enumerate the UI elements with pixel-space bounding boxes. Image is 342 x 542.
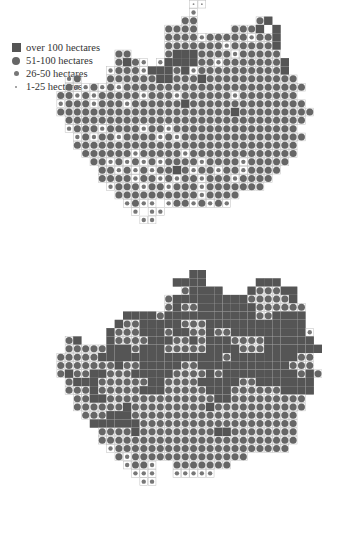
large-circle-icon <box>124 67 131 74</box>
large-circle-icon <box>173 42 180 49</box>
large-circle-icon <box>265 133 272 140</box>
over-100-square-icon <box>123 419 131 427</box>
large-circle-icon <box>124 329 131 336</box>
top-distribution-map <box>40 0 322 224</box>
large-circle-icon <box>182 125 189 132</box>
large-circle-icon <box>248 420 255 427</box>
over-100-square-icon <box>65 370 73 378</box>
large-circle-icon <box>248 296 255 303</box>
large-circle-icon <box>165 420 172 427</box>
medium-circle-icon <box>183 471 187 475</box>
large-circle-icon <box>82 125 89 132</box>
over-100-square-icon <box>272 328 280 336</box>
large-circle-icon <box>215 183 222 190</box>
large-circle-icon <box>273 296 280 303</box>
over-100-square-icon <box>156 328 164 336</box>
large-circle-icon <box>215 329 222 336</box>
large-circle-icon <box>281 158 288 165</box>
large-circle-icon <box>273 412 280 419</box>
over-100-square-icon <box>198 75 206 83</box>
over-100-square-icon <box>156 378 164 386</box>
large-circle-icon <box>82 412 89 419</box>
medium-circle-icon <box>216 168 220 172</box>
medium-circle-icon <box>158 176 162 180</box>
large-circle-icon <box>265 304 272 311</box>
large-circle-icon <box>240 142 247 149</box>
large-circle-icon <box>74 370 81 377</box>
large-circle-icon <box>132 320 139 327</box>
large-circle-icon <box>256 50 263 57</box>
large-circle-icon <box>223 125 230 132</box>
large-circle-icon <box>99 412 106 419</box>
large-circle-icon <box>190 395 197 402</box>
over-100-square-icon <box>206 328 214 336</box>
large-circle-icon <box>165 42 172 49</box>
small-dot-icon <box>201 3 203 5</box>
large-circle-icon <box>273 117 280 124</box>
large-circle-icon <box>107 403 114 410</box>
over-100-square-icon <box>173 58 181 66</box>
large-circle-icon <box>290 428 297 435</box>
large-circle-icon <box>248 125 255 132</box>
over-100-square-icon <box>214 312 222 320</box>
over-100-square-icon <box>165 75 173 83</box>
large-circle-icon <box>140 403 147 410</box>
medium-circle-icon <box>108 446 112 450</box>
large-circle-icon <box>198 50 205 57</box>
over-100-square-icon <box>181 353 189 361</box>
over-100-square-icon <box>297 386 305 394</box>
large-circle-icon <box>99 387 106 394</box>
large-circle-icon <box>215 437 222 444</box>
large-circle-icon <box>140 428 147 435</box>
large-circle-icon <box>298 403 305 410</box>
large-circle-icon <box>207 59 214 66</box>
large-circle-icon <box>124 75 131 82</box>
large-circle-icon <box>207 34 214 41</box>
large-circle-icon <box>290 92 297 99</box>
large-circle-icon <box>232 337 239 344</box>
large-circle-icon <box>248 337 255 344</box>
over-100-square-icon <box>223 370 231 378</box>
large-circle-icon <box>190 437 197 444</box>
large-circle-icon <box>240 445 247 452</box>
over-100-square-icon <box>90 386 98 394</box>
large-circle-icon <box>290 109 297 116</box>
large-circle-icon <box>173 142 180 149</box>
large-circle-icon <box>74 362 81 369</box>
large-circle-icon <box>281 428 288 435</box>
large-circle-icon <box>273 304 280 311</box>
large-circle-icon <box>273 133 280 140</box>
large-circle-icon <box>165 117 172 124</box>
large-circle-icon <box>240 92 247 99</box>
large-circle-icon <box>66 387 73 394</box>
over-100-square-icon <box>239 320 247 328</box>
over-100-square-icon <box>206 312 214 320</box>
over-100-square-icon <box>256 278 264 286</box>
large-circle-icon <box>290 362 297 369</box>
medium-circle-icon <box>158 60 162 64</box>
large-circle-icon <box>82 354 89 361</box>
large-circle-icon <box>99 100 106 107</box>
large-circle-icon <box>190 445 197 452</box>
large-circle-icon <box>198 387 205 394</box>
large-circle-icon <box>165 379 172 386</box>
large-circle-icon <box>173 67 180 74</box>
over-100-square-icon <box>156 386 164 394</box>
large-circle-icon <box>232 133 239 140</box>
over-100-square-icon <box>281 328 289 336</box>
large-circle-icon <box>232 59 239 66</box>
large-circle-icon <box>107 379 114 386</box>
large-circle-icon <box>124 370 131 377</box>
large-circle-icon <box>198 395 205 402</box>
large-circle-icon <box>265 142 272 149</box>
large-circle-icon <box>182 337 189 344</box>
over-100-square-icon <box>131 370 139 378</box>
large-circle-icon <box>90 354 97 361</box>
medium-circle-icon <box>208 471 212 475</box>
medium-circle-icon <box>200 176 204 180</box>
over-100-square-icon <box>223 395 231 403</box>
large-circle-icon <box>290 100 297 107</box>
large-circle-icon <box>173 403 180 410</box>
large-circle-icon <box>157 192 164 199</box>
large-circle-icon <box>215 67 222 74</box>
